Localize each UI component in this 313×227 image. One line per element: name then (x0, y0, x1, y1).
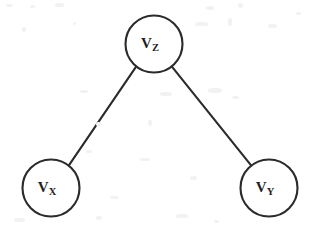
edge-vz-vy (172, 66, 252, 165)
edge-vz-vx (69, 66, 137, 165)
node-vz-base: V (141, 35, 152, 51)
node-vy-subscript: Y (267, 186, 275, 197)
node-vx-subscript: X (49, 186, 57, 197)
graph-canvas: VZ VX VY (0, 0, 313, 227)
edge-layer (69, 66, 252, 165)
node-vx: VX (23, 160, 80, 217)
node-vy: VY (241, 160, 298, 217)
graph-diagram-figure: VZ VX VY (0, 0, 313, 227)
node-vz: VZ (126, 16, 183, 73)
node-vy-base: V (256, 179, 267, 195)
node-vx-base: V (38, 179, 49, 195)
node-vz-subscript: Z (152, 42, 159, 53)
